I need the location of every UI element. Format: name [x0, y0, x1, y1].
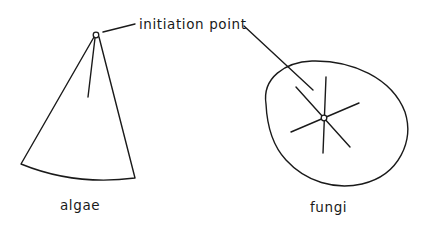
- algae-fan-outline: [21, 37, 135, 180]
- leader-line-algae: [103, 24, 135, 32]
- fungi-shape: [266, 61, 408, 186]
- initiation-point-label: initiation point: [139, 16, 247, 32]
- algae-initiation-point-marker: [93, 32, 99, 38]
- diagram-canvas: initiation point algae fungi: [0, 0, 426, 227]
- algae-shape: [21, 32, 135, 180]
- fungi-outline: [266, 61, 408, 186]
- algae-label: algae: [60, 197, 100, 213]
- fungi-initiation-point-marker: [321, 115, 327, 121]
- leader-line-fungi: [244, 26, 313, 90]
- fungi-label: fungi: [310, 199, 347, 215]
